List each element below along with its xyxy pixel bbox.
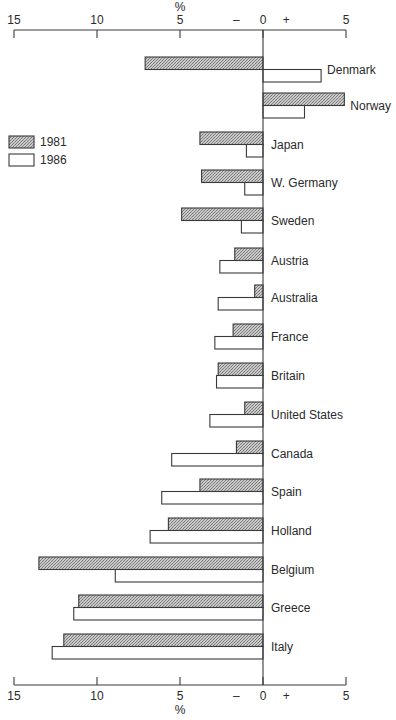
legend: 19811986	[9, 135, 67, 167]
category-label: W. Germany	[271, 176, 338, 190]
tick-label: 10	[90, 13, 104, 27]
bar-belgium-1981	[39, 557, 263, 570]
tick-label: 5	[343, 689, 350, 703]
bar-italy-1981	[64, 634, 263, 647]
tick-label: 0	[260, 689, 267, 703]
bar-denmark-1986	[263, 70, 321, 83]
bar-norway-1986	[263, 106, 305, 119]
legend-label: 1986	[40, 153, 67, 167]
bar-holland-1981	[168, 518, 263, 531]
category-labels: DenmarkNorwayJapanW. GermanySwedenAustri…	[271, 63, 391, 654]
axis-unit-label: %	[175, 0, 186, 14]
bar-sweden-1986	[241, 221, 263, 234]
bar-greece-1986	[74, 608, 263, 621]
legend-label: 1981	[40, 135, 67, 149]
bar-holland-1986	[150, 531, 263, 544]
bar-spain-1981	[200, 479, 263, 492]
bar-france-1981	[233, 324, 263, 337]
bar-greece-1981	[79, 595, 263, 608]
bar-austria-1986	[220, 261, 263, 274]
category-label: Greece	[271, 601, 311, 615]
category-label: Austria	[271, 254, 309, 268]
minus-sign: –	[233, 13, 240, 27]
bar-norway-1981	[263, 93, 344, 106]
tick-label: 5	[177, 13, 184, 27]
category-label: Australia	[271, 291, 318, 305]
tick-label: 15	[7, 13, 21, 27]
bar-united-states-1986	[210, 415, 263, 428]
tick-label: 15	[7, 689, 21, 703]
category-label: Canada	[271, 447, 313, 461]
bar-w-germany-1986	[245, 183, 263, 196]
minus-sign: –	[233, 689, 240, 703]
bar-sweden-1981	[182, 208, 263, 221]
category-label: Denmark	[327, 63, 377, 77]
bar-japan-1981	[200, 132, 263, 145]
bar-australia-1986	[218, 298, 263, 311]
category-label: Spain	[271, 485, 302, 499]
legend-swatch-1986	[9, 154, 34, 166]
bar-france-1986	[215, 337, 263, 350]
bar-united-states-1981	[245, 402, 263, 415]
category-label: France	[271, 330, 309, 344]
category-label: Holland	[271, 524, 312, 538]
category-label: Belgium	[271, 563, 314, 577]
bar-austria-1981	[235, 248, 263, 261]
category-label: Norway	[350, 99, 391, 113]
category-label: Sweden	[271, 214, 314, 228]
plus-sign: +	[283, 13, 290, 27]
bar-japan-1986	[246, 145, 263, 158]
category-label: Britain	[271, 369, 305, 383]
bottom-axis: 1510505–+%	[7, 677, 349, 717]
bar-w-germany-1981	[202, 170, 263, 183]
category-label: Japan	[271, 138, 304, 152]
bar-spain-1986	[162, 492, 263, 505]
axis-unit-label: %	[175, 703, 186, 717]
category-label: Italy	[271, 640, 293, 654]
category-label: United States	[271, 408, 343, 422]
bar-chart: 1510505–+% 1510505–+% DenmarkNorwayJapan…	[0, 0, 396, 720]
bar-belgium-1986	[115, 570, 263, 583]
legend-swatch-1981	[9, 136, 34, 148]
bar-italy-1986	[52, 647, 263, 660]
bar-britain-1981	[218, 363, 263, 376]
tick-label: 5	[177, 689, 184, 703]
tick-label: 10	[90, 689, 104, 703]
plus-sign: +	[283, 689, 290, 703]
bar-denmark-1981	[145, 57, 263, 70]
bar-canada-1986	[172, 454, 263, 467]
bar-canada-1981	[236, 441, 263, 454]
top-axis: 1510505–+%	[7, 0, 349, 38]
tick-label: 5	[343, 13, 350, 27]
bar-australia-1981	[255, 285, 263, 298]
tick-label: 0	[260, 13, 267, 27]
bar-britain-1986	[217, 376, 263, 389]
